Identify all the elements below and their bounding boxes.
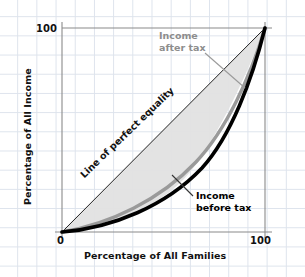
y-axis-tick-100: 100 [36,23,57,34]
annotation-before-tax-line2: before tax [196,202,251,214]
annotation-after-tax-line2: after tax [159,42,206,54]
annotation-before-tax-line1: Income [196,190,251,202]
annotation-income-after-tax: Income after tax [159,30,206,53]
x-axis-tick-0: 0 [57,235,64,246]
annotation-income-before-tax: Income before tax [196,190,251,213]
x-axis-tick-100: 100 [250,235,271,246]
annotation-after-tax-line1: Income [159,30,206,42]
y-axis-title: Percentage of All Income [22,68,33,205]
lorenz-curve-figure: 100 0 100 Percentage of All Income Perce… [0,0,305,277]
x-axis-title: Percentage of All Families [84,250,226,261]
